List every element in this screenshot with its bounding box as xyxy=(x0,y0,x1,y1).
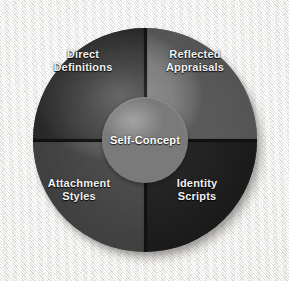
self-concept-wheel: Self-Concept xyxy=(33,28,257,252)
center-hub-label: Self-Concept xyxy=(110,134,180,147)
center-hub[interactable]: Self-Concept xyxy=(102,97,188,183)
diagram-canvas: Self-Concept Direct Definitions Reflecte… xyxy=(0,0,289,281)
center-hub-label-line-1: Self-Concept xyxy=(110,134,180,147)
